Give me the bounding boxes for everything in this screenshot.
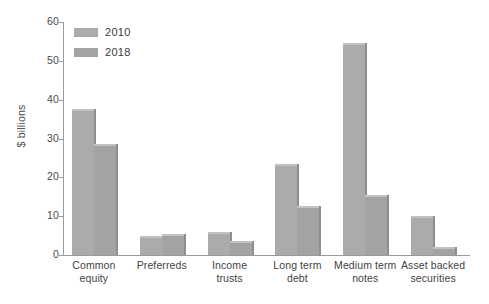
- y-axis-tick-label: 40: [37, 93, 59, 105]
- bar-top-face: [140, 236, 162, 238]
- bar-side-face: [116, 144, 118, 255]
- bar-top-face: [365, 195, 387, 197]
- bar-top-face: [230, 241, 252, 243]
- x-axis-line: [63, 255, 470, 256]
- y-axis-title: $ billions: [15, 91, 27, 161]
- bar-top-face: [208, 232, 230, 234]
- bar-top-face: [94, 144, 116, 146]
- bar: [162, 236, 184, 255]
- legend-swatch: [74, 28, 98, 37]
- bar: [297, 208, 319, 255]
- bar-top-face: [162, 234, 184, 236]
- legend-label: 2018: [105, 46, 131, 58]
- x-axis-category-label-line: Asset backed: [391, 259, 475, 272]
- bar-top-face: [433, 247, 455, 249]
- bar: [275, 166, 297, 255]
- bar: [365, 197, 387, 255]
- x-axis-category-label-line: equity: [52, 272, 136, 285]
- bar-top-face: [72, 109, 94, 111]
- chart-legend: 20102018: [74, 24, 131, 64]
- bar-side-face: [455, 247, 457, 255]
- bar: [72, 111, 94, 255]
- bar-group: [140, 22, 184, 255]
- bar-group: [343, 22, 387, 255]
- y-axis-tick-label: 60: [37, 15, 59, 27]
- bar-side-face: [184, 234, 186, 255]
- bar-top-face: [343, 43, 365, 45]
- bar: [343, 45, 365, 255]
- bar-top-face: [275, 164, 297, 166]
- bar: [411, 218, 433, 255]
- bar: [208, 234, 230, 255]
- bar: [433, 249, 455, 255]
- bar: [140, 238, 162, 255]
- y-axis-tick-label: 50: [37, 54, 59, 66]
- bar-chart: 0102030405060 $ billions CommonequityPre…: [0, 0, 489, 304]
- bar-group: [275, 22, 319, 255]
- legend-item[interactable]: 2010: [74, 24, 131, 40]
- bar: [230, 243, 252, 255]
- legend-item[interactable]: 2018: [74, 44, 131, 60]
- bar-side-face: [252, 241, 254, 255]
- bar: [94, 146, 116, 255]
- x-axis-category-label-line: securities: [391, 272, 475, 285]
- x-axis-category-label: Asset backedsecurities: [391, 259, 475, 284]
- y-axis-tick-label: 20: [37, 170, 59, 182]
- bar-side-face: [387, 195, 389, 255]
- y-axis-tick-label: 30: [37, 132, 59, 144]
- bar-side-face: [319, 206, 321, 255]
- legend-label: 2010: [105, 26, 131, 38]
- legend-swatch: [74, 48, 98, 57]
- bar-group: [208, 22, 252, 255]
- bar-top-face: [411, 216, 433, 218]
- bar-group: [411, 22, 455, 255]
- bar-top-face: [297, 206, 319, 208]
- y-axis-tick-label: 10: [37, 209, 59, 221]
